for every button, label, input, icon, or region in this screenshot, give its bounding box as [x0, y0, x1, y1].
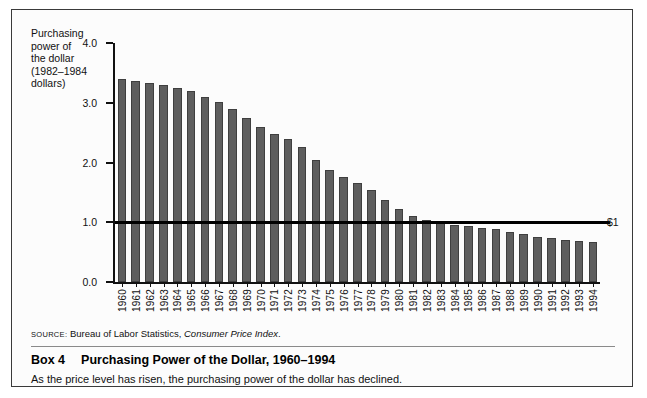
x-tick-label: 1969	[242, 289, 253, 312]
x-tick-label: 1974	[311, 289, 322, 312]
bar	[450, 225, 459, 282]
source-italic-title: Consumer Price Index	[184, 328, 278, 339]
bar	[395, 209, 404, 282]
bar	[436, 222, 445, 282]
bar-series: 1960196119621963196419651966196719681969…	[115, 43, 600, 282]
x-tick	[344, 282, 345, 287]
x-tick	[150, 282, 151, 287]
bar	[422, 220, 431, 282]
x-tick	[247, 282, 248, 287]
x-tick-label: 1994	[588, 289, 599, 312]
x-tick-label: 1973	[297, 289, 308, 312]
bar	[187, 91, 196, 282]
x-tick-label: 1981	[408, 289, 419, 312]
x-tick-label: 1985	[463, 289, 474, 312]
x-tick-label: 1992	[560, 289, 571, 312]
x-tick	[233, 282, 234, 287]
bar	[159, 85, 168, 282]
bar	[145, 83, 154, 282]
x-tick-label: 1964	[172, 289, 183, 312]
x-tick	[330, 282, 331, 287]
y-tick	[106, 221, 113, 223]
bar	[381, 200, 390, 282]
x-tick	[593, 282, 594, 287]
x-tick	[358, 282, 359, 287]
box-caption: As the price level has risen, the purcha…	[31, 373, 402, 385]
x-tick-label: 1983	[436, 289, 447, 312]
x-tick	[302, 282, 303, 287]
x-tick	[191, 282, 192, 287]
y-tick	[106, 162, 113, 164]
figure-box: Purchasing power of the dollar (1982–198…	[11, 9, 633, 387]
x-tick	[427, 282, 428, 287]
bar	[464, 226, 473, 282]
x-tick-label: 1978	[366, 289, 377, 312]
x-tick	[261, 282, 262, 287]
x-tick-label: 1988	[505, 289, 516, 312]
x-tick-label: 1971	[269, 289, 280, 312]
x-tick	[164, 282, 165, 287]
y-tick-label: 1.0	[82, 216, 97, 228]
source-suffix: .	[278, 328, 281, 339]
reference-line	[115, 221, 610, 224]
x-tick	[482, 282, 483, 287]
x-tick	[399, 282, 400, 287]
bar	[201, 97, 210, 282]
bar	[409, 216, 418, 282]
x-tick	[468, 282, 469, 287]
y-tick-label: 3.0	[82, 97, 97, 109]
bar	[367, 190, 376, 282]
x-tick	[538, 282, 539, 287]
bar	[215, 102, 224, 282]
x-tick-label: 1966	[200, 289, 211, 312]
bar	[173, 88, 182, 282]
x-tick-label: 1979	[380, 289, 391, 312]
x-tick	[177, 282, 178, 287]
bar	[242, 118, 251, 282]
x-tick	[524, 282, 525, 287]
x-tick-label: 1993	[574, 289, 585, 312]
x-tick	[565, 282, 566, 287]
figure-inner: Purchasing power of the dollar (1982–198…	[12, 10, 632, 386]
x-tick-label: 1986	[477, 289, 488, 312]
x-tick	[496, 282, 497, 287]
x-tick	[385, 282, 386, 287]
bar	[547, 238, 556, 282]
x-tick-label: 1970	[256, 289, 267, 312]
x-tick-label: 1963	[159, 289, 170, 312]
bar	[589, 242, 598, 282]
x-tick-label: 1967	[214, 289, 225, 312]
source-text: Bureau of Labor Statistics,	[67, 328, 184, 339]
bar	[256, 127, 265, 282]
y-tick-label: 4.0	[82, 37, 97, 49]
bar	[118, 79, 127, 282]
x-tick	[455, 282, 456, 287]
bar	[533, 237, 542, 282]
reference-line-label: $1	[607, 216, 619, 228]
y-tick	[106, 281, 113, 283]
source-note: SOURCE: Bureau of Labor Statistics, Cons…	[31, 328, 281, 339]
x-tick-label: 1984	[450, 289, 461, 312]
x-tick-label: 1975	[325, 289, 336, 312]
x-tick	[579, 282, 580, 287]
x-tick-label: 1972	[283, 289, 294, 312]
bar	[325, 170, 334, 282]
x-tick-label: 1991	[547, 289, 558, 312]
bar	[561, 240, 570, 282]
x-tick-label: 1962	[145, 289, 156, 312]
x-tick	[316, 282, 317, 287]
bar	[131, 81, 140, 282]
x-tick	[274, 282, 275, 287]
box-heading: Box 4Purchasing Power of the Dollar, 196…	[31, 353, 335, 367]
x-tick-label: 1968	[228, 289, 239, 312]
box-number: Box 4	[31, 353, 65, 367]
y-tick	[106, 102, 113, 104]
bar	[519, 234, 528, 282]
bar	[492, 229, 501, 282]
x-tick-label: 1960	[117, 289, 128, 312]
x-tick	[552, 282, 553, 287]
y-tick	[106, 42, 113, 44]
x-tick	[413, 282, 414, 287]
x-tick-label: 1987	[491, 289, 502, 312]
bar	[353, 183, 362, 282]
